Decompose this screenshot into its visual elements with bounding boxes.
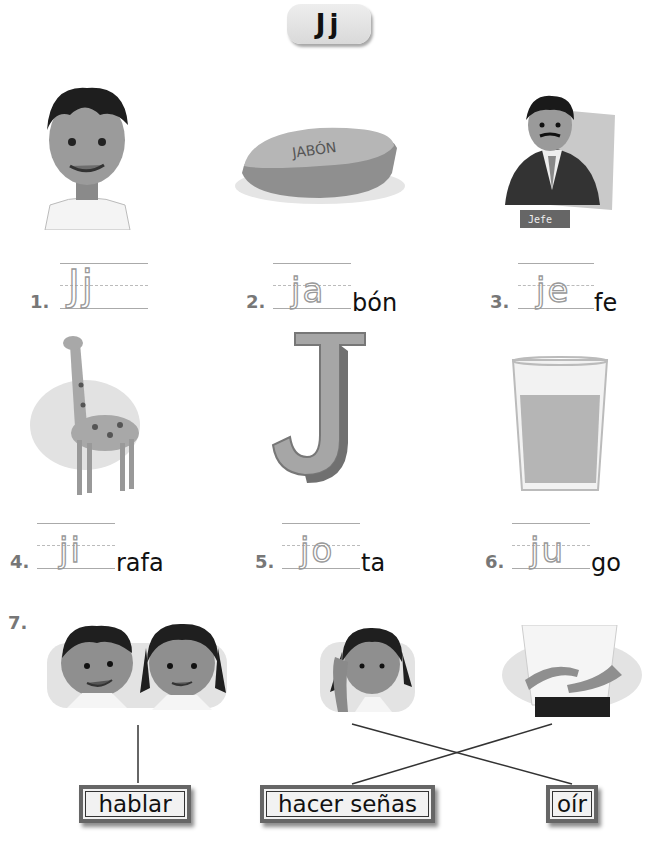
title-badge: Jj — [287, 4, 371, 44]
picture-children-talking — [42, 618, 232, 713]
svg-text:Jefe: Jefe — [528, 214, 552, 225]
word-suffix: go — [591, 549, 621, 577]
tracing-guide[interactable]: Jj — [60, 263, 148, 323]
word-suffix: ta — [361, 549, 385, 577]
traced-letters: jo — [300, 533, 334, 567]
word-label: oír — [557, 791, 587, 817]
picture-soap: JABÓN — [232, 118, 407, 208]
word-suffix: bón — [352, 289, 397, 317]
exercise-number: 1. — [30, 291, 49, 312]
tracing-guide[interactable]: ju — [512, 523, 590, 583]
word-suffix: rafa — [116, 549, 164, 577]
picture-giraffe — [25, 315, 155, 500]
exercise-number: 2. — [246, 291, 265, 312]
picture-boss: Jefe — [490, 80, 615, 230]
exercise-4: 4. ji rafa — [10, 523, 190, 593]
word-label: hacer señas — [278, 791, 417, 817]
picture-juice — [510, 355, 610, 495]
picture-letter-j — [265, 325, 380, 485]
exercise-number: 6. — [485, 551, 504, 572]
word-label: hablar — [98, 791, 171, 817]
title-text: Jj — [316, 9, 343, 39]
exercise-number: 3. — [490, 291, 509, 312]
tracing-guide[interactable]: je — [518, 263, 594, 323]
exercise-3: 3. je fe — [490, 263, 650, 333]
traced-letters: Jj — [68, 265, 95, 305]
exercise-5: 5. jo ta — [255, 523, 435, 593]
word-card-oir[interactable]: oír — [546, 785, 598, 823]
picture-hands-signing — [497, 625, 642, 720]
traced-letters: ju — [530, 533, 565, 567]
exercise-2: 2. ja bón — [246, 263, 426, 333]
word-card-hacer-senas[interactable]: hacer señas — [260, 785, 435, 823]
traced-letters: ji — [59, 533, 82, 567]
exercise-number: 4. — [10, 551, 29, 572]
word-suffix: fe — [594, 289, 617, 317]
tracing-guide[interactable]: ji — [37, 523, 115, 583]
picture-girl-listening — [320, 622, 420, 714]
exercise-6: 6. ju go — [485, 523, 655, 593]
picture-boy — [30, 70, 145, 230]
traced-letters: je — [536, 273, 570, 307]
word-card-hablar[interactable]: hablar — [79, 785, 191, 823]
tracing-guide[interactable]: jo — [282, 523, 360, 583]
exercise-7-number: 7. — [8, 612, 27, 633]
exercise-number: 5. — [255, 551, 274, 572]
tracing-guide[interactable]: ja — [273, 263, 351, 323]
traced-letters: ja — [291, 273, 325, 307]
